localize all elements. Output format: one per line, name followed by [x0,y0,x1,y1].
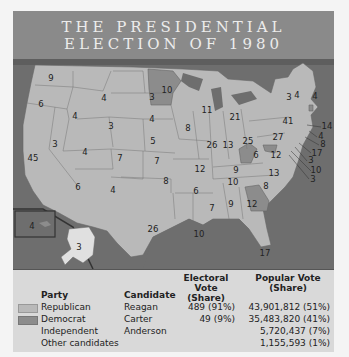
popular-vote: 43,901,812 (51%) [235,302,330,313]
label-vt: 3 [286,92,291,102]
label-id: 4 [72,111,77,121]
label-al: 9 [228,199,233,209]
party-name: Democrat [41,314,85,325]
header-popular-vote: Popular Vote (Share) [248,273,328,293]
label-fl: 17 [260,248,271,258]
map-title: THE PRESIDENTIAL ELECTION OF 1980 [13,11,334,59]
header-party: Party [41,290,68,301]
label-in: 13 [223,140,234,150]
label-az: 6 [75,182,80,192]
label-ar: 6 [193,186,198,196]
label-me: 4 [312,91,317,101]
label-de: 3 [308,155,313,165]
label-sc: 8 [263,181,268,191]
label-ny: 41 [283,116,294,126]
label-mi: 21 [230,112,241,122]
label-sd: 4 [149,114,154,124]
candidate-name: Reagan [124,302,158,313]
label-il: 26 [207,140,218,150]
label-wa: 9 [48,73,53,83]
label-oh: 25 [243,136,254,146]
candidate-name: Anderson [124,326,167,337]
header-candidate: Candidate [124,290,176,301]
popular-vote: 1,155,593 (1%) [235,338,330,349]
label-ok: 8 [163,176,168,186]
label-wv: 6 [253,150,258,160]
label-nd: 3 [149,92,154,102]
label-wy: 3 [108,121,113,131]
label-mt: 4 [101,93,106,103]
label-ca: 45 [28,153,39,163]
popular-vote: 35,483,820 (41%) [235,314,330,325]
legend-row-independent: Independent Anderson 5,720,437 (7%) [13,326,334,337]
label-tn: 10 [228,177,239,187]
label-tx: 26 [148,224,159,234]
label-wi: 11 [202,105,213,115]
popular-vote: 5,720,437 (7%) [235,326,330,337]
election-map-figure: THE PRESIDENTIAL ELECTION OF 1980 [13,11,334,341]
label-ky: 9 [233,165,238,175]
label-ia: 8 [185,123,190,133]
label-nh: 4 [294,90,299,100]
us-map-svg: 9 6 45 4 3 4 3 4 7 6 4 3 4 5 7 8 26 10 8… [13,59,334,269]
candidate-name: Carter [124,314,152,325]
title-line-1: THE PRESIDENTIAL [13,19,334,36]
legend-row-other: Other candidates 1,155,593 (1%) [13,338,334,349]
label-ut: 4 [82,147,87,157]
header-electoral-vote: Electoral Vote (Share) [171,273,241,303]
label-ak: 3 [76,242,81,252]
label-va: 12 [271,150,282,160]
label-nc: 13 [269,168,280,178]
label-mo: 12 [195,164,206,174]
label-mn: 10 [162,85,173,95]
electoral-vote: 489 (91%) [173,302,235,313]
label-la: 10 [194,229,205,239]
label-ga: 12 [247,199,258,209]
electoral-vote: 49 (9%) [173,314,235,325]
label-dc: 3 [310,174,315,184]
label-ne: 5 [150,136,155,146]
label-pa: 27 [273,132,284,142]
democrat-swatch [18,316,38,325]
party-name: Other candidates [41,338,119,349]
label-ks: 7 [154,156,159,166]
republican-swatch [18,304,38,313]
us-map: 9 6 45 4 3 4 3 4 7 6 4 3 4 5 7 8 26 10 8… [13,59,334,269]
legend-row-republican: Republican Reagan 489 (91%) 43,901,812 (… [13,302,334,313]
label-hi: 4 [29,221,34,231]
label-co: 7 [117,153,122,163]
title-line-2: ELECTION OF 1980 [13,36,334,53]
label-nm: 4 [110,185,115,195]
label-or: 6 [38,99,43,109]
label-nv: 3 [52,139,57,149]
label-ms: 7 [209,203,214,213]
state-rhode-island [309,105,313,111]
label-ma: 14 [322,121,333,131]
party-name: Independent [41,326,98,337]
legend-table: Party Candidate Electoral Vote (Share) P… [13,269,334,352]
legend-row-democrat: Democrat Carter 49 (9%) 35,483,820 (41%) [13,314,334,325]
party-name: Republican [41,302,91,313]
